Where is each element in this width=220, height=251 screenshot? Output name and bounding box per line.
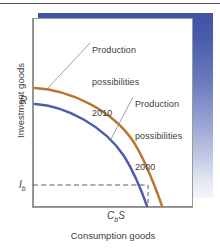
leader-line-2010 — [47, 43, 90, 89]
y-tick-label-Ib: Ib — [19, 179, 26, 192]
callout-ppf-2000: Production possibilities 2000 — [135, 78, 182, 194]
y-tick-label-R: R — [20, 95, 27, 106]
callout-2000-line1: Production — [135, 99, 182, 110]
x-tick-S-text: S — [118, 210, 125, 221]
callout-ppf-2010: Production possibilities 2010 — [92, 24, 139, 140]
callout-2010-line3: 2010 — [92, 108, 139, 119]
x-axis-title: Consumption goods — [33, 230, 193, 241]
x-tick-label-CbS: CbS — [107, 210, 125, 223]
ppf-figure: Production possibilities 2010 Production… — [0, 0, 220, 251]
callout-2000-line3: 2000 — [135, 162, 182, 173]
callout-2000-line2: possibilities — [135, 131, 182, 142]
y-tick-R-text: R — [20, 95, 27, 106]
y-tick-Ib-subscript: b — [22, 185, 26, 192]
callout-2010-line2: possibilities — [92, 77, 139, 88]
callout-2010-line1: Production — [92, 45, 139, 56]
